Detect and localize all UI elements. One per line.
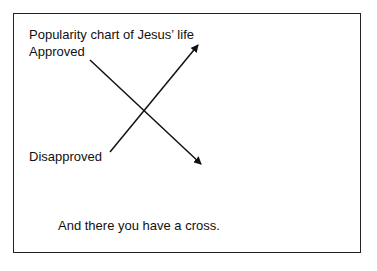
declining-arrow [90, 60, 201, 164]
cross-arrows [0, 0, 377, 271]
rising-arrow [110, 45, 198, 152]
